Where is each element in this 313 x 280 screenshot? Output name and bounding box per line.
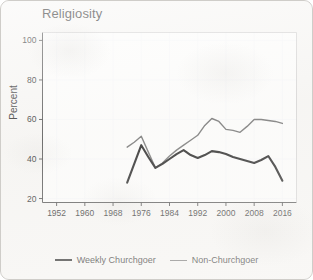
svg-text:1976: 1976 <box>132 208 151 218</box>
svg-text:1968: 1968 <box>104 208 123 218</box>
svg-text:2016: 2016 <box>273 208 292 218</box>
svg-text:1960: 1960 <box>75 208 94 218</box>
legend-label-weekly-churchgoer: Weekly Churchgoer <box>77 255 156 265</box>
legend-line-non-churchgoer-icon <box>170 260 187 261</box>
svg-text:100: 100 <box>22 35 36 45</box>
chart-title: Religiosity <box>42 6 102 21</box>
plot-area: 20406080100 1952196019681976198419922000… <box>1 1 313 280</box>
chart-legend: Weekly Churchgoer Non-Churchgoer <box>1 255 312 265</box>
svg-text:2000: 2000 <box>216 208 235 218</box>
svg-text:20: 20 <box>27 194 37 204</box>
svg-text:1992: 1992 <box>188 208 207 218</box>
svg-text:40: 40 <box>27 154 37 164</box>
y-axis-ticks: 20406080100 <box>22 35 42 203</box>
legend-label-non-churchgoer: Non-Churchgoer <box>192 255 259 265</box>
svg-text:2008: 2008 <box>245 208 264 218</box>
svg-text:60: 60 <box>27 114 37 124</box>
plot-frame <box>43 33 297 203</box>
legend-entry-non-churchgoer: Non-Churchgoer <box>170 255 259 265</box>
svg-text:1952: 1952 <box>47 208 66 218</box>
x-axis-ticks: 195219601968197619841992200020082016 <box>47 203 292 218</box>
y-axis-label: Percent <box>8 73 19 133</box>
svg-text:80: 80 <box>27 75 37 85</box>
legend-entry-weekly-churchgoer: Weekly Churchgoer <box>55 255 156 265</box>
legend-line-weekly-churchgoer-icon <box>55 259 72 261</box>
svg-text:1984: 1984 <box>160 208 179 218</box>
figure-card: Religiosity Percent 20406080100 19521960… <box>0 0 313 280</box>
